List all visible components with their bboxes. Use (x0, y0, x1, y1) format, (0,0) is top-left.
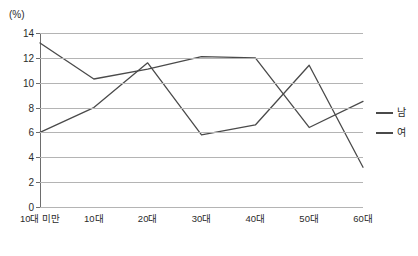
gridline (40, 83, 363, 84)
x-axis-tick-label: 30대 (192, 211, 212, 225)
legend-item-female: 여 (376, 128, 406, 138)
x-axis-tick-label: 40대 (246, 211, 266, 225)
y-axis-tick-label: 14 (8, 28, 34, 39)
gridline (40, 33, 363, 34)
y-axis-tick (36, 33, 40, 34)
legend-swatch-male (376, 112, 393, 115)
gridline (40, 207, 363, 208)
plot-area (40, 33, 363, 207)
series-lines (40, 33, 363, 207)
y-axis-tick-label: 12 (8, 52, 34, 63)
series-line-여 (40, 63, 363, 167)
y-axis-tick (36, 157, 40, 158)
x-axis-tick-label: 60대 (353, 211, 373, 225)
chart-legend: 남 여 (376, 108, 406, 138)
y-axis-tick (36, 58, 40, 59)
x-axis-tick-label: 20대 (138, 211, 158, 225)
gridline (40, 182, 363, 183)
gridline (40, 108, 363, 109)
legend-label-female: 여 (397, 128, 406, 138)
series-line-남 (40, 43, 363, 128)
gridline (40, 132, 363, 133)
y-axis-tick-label: 10 (8, 77, 34, 88)
y-axis-tick-label: 6 (8, 127, 34, 138)
legend-swatch-female (376, 132, 393, 135)
y-axis-tick (36, 132, 40, 133)
x-axis-tick-label: 10대 미만 (20, 211, 60, 225)
y-axis-tick (36, 83, 40, 84)
x-axis-tick-label: 50대 (299, 211, 319, 225)
gridline (40, 157, 363, 158)
line-chart: (%) 02468101214 남 여 10대 미만10대20대30대40대50… (0, 0, 418, 256)
x-axis-tick-label: 10대 (84, 211, 104, 225)
legend-label-male: 남 (397, 108, 406, 118)
gridline (40, 58, 363, 59)
y-axis-tick (36, 108, 40, 109)
y-axis-tick-label: 8 (8, 102, 34, 113)
y-axis-tick (36, 207, 40, 208)
legend-item-male: 남 (376, 108, 406, 118)
y-axis-tick-label: 2 (8, 177, 34, 188)
y-axis-tick-label: 4 (8, 152, 34, 163)
y-axis-tick (36, 182, 40, 183)
